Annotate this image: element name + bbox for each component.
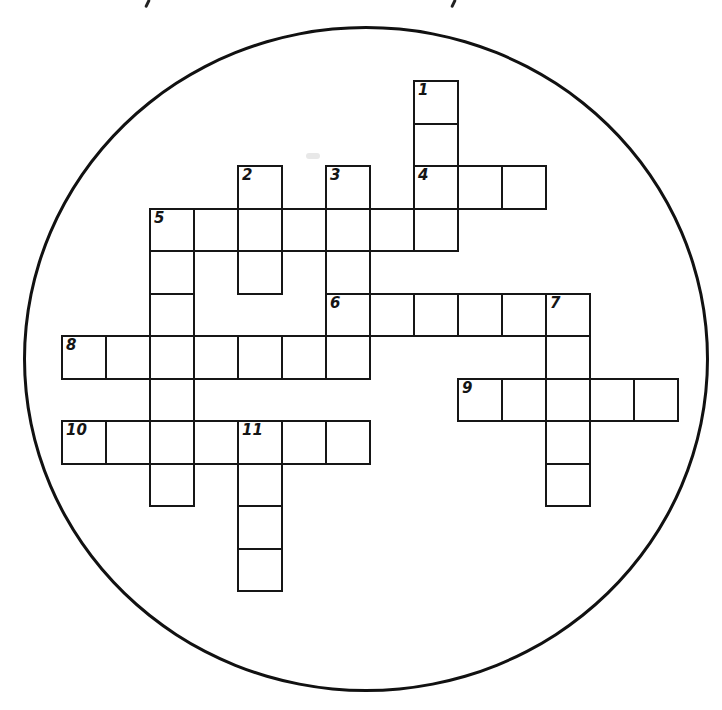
crossword-cell[interactable] (237, 335, 283, 380)
clue-number: 8 (66, 338, 76, 353)
crossword-cell[interactable] (413, 208, 459, 253)
crossword-cell[interactable] (457, 293, 503, 338)
clue-number: 9 (462, 381, 472, 396)
crossword-cell[interactable] (149, 378, 195, 423)
crossword-cell[interactable] (545, 378, 591, 423)
crossword-cell[interactable] (501, 165, 547, 210)
crossword-cell[interactable]: 3 (325, 165, 371, 210)
crossword-cell[interactable] (149, 335, 195, 380)
crossword-cell[interactable]: 9 (457, 378, 503, 423)
clue-number: 6 (330, 296, 340, 311)
crossword-cell[interactable] (589, 378, 635, 423)
crossword-cell[interactable] (237, 505, 283, 550)
cropped-text-fragment (450, 0, 457, 8)
crossword-cell[interactable] (237, 463, 283, 508)
crossword-cell[interactable] (545, 335, 591, 380)
crossword-cell[interactable] (149, 420, 195, 465)
crossword-cell[interactable] (325, 420, 371, 465)
clue-number: 7 (550, 296, 560, 311)
crossword-cell[interactable] (501, 293, 547, 338)
crossword-cell[interactable] (413, 293, 459, 338)
crossword-cell[interactable] (501, 378, 547, 423)
crossword-cell[interactable]: 11 (237, 420, 283, 465)
crossword-cell[interactable] (325, 335, 371, 380)
crossword-cell[interactable] (633, 378, 679, 423)
crossword-cell[interactable] (237, 208, 283, 253)
crossword-cell[interactable] (325, 250, 371, 295)
crossword-cell[interactable] (545, 463, 591, 508)
crossword-cell[interactable] (545, 420, 591, 465)
crossword-cell[interactable] (369, 293, 415, 338)
clue-number: 10 (66, 423, 87, 438)
crossword-cell[interactable] (149, 293, 195, 338)
crossword-cell[interactable] (237, 548, 283, 593)
crossword-cell[interactable] (193, 420, 239, 465)
crossword-cell[interactable] (237, 250, 283, 295)
crossword-cell[interactable]: 1 (413, 80, 459, 125)
crossword-cell[interactable] (325, 208, 371, 253)
crossword-cell[interactable]: 4 (413, 165, 459, 210)
crossword-cell[interactable] (413, 123, 459, 168)
crossword-cell[interactable] (281, 208, 327, 253)
crossword-cell[interactable] (457, 165, 503, 210)
crossword-page: 1423657891011 (0, 0, 722, 710)
crossword-cell[interactable] (105, 335, 151, 380)
crossword-cell[interactable] (193, 208, 239, 253)
crossword-cell[interactable] (149, 250, 195, 295)
crossword-cell[interactable]: 2 (237, 165, 283, 210)
crossword-cell[interactable]: 10 (61, 420, 107, 465)
crossword-cell[interactable]: 7 (545, 293, 591, 338)
clue-number: 4 (418, 168, 428, 183)
crossword-cell[interactable] (149, 463, 195, 508)
clue-number: 11 (242, 423, 263, 438)
cropped-text-fragment (144, 0, 151, 8)
crossword-cell[interactable]: 6 (325, 293, 371, 338)
crossword-cell[interactable] (105, 420, 151, 465)
crossword-cell[interactable] (281, 335, 327, 380)
clue-number: 1 (418, 83, 428, 98)
crossword-cell[interactable] (369, 208, 415, 253)
crossword-cell[interactable]: 8 (61, 335, 107, 380)
clue-number: 5 (154, 211, 164, 226)
crossword-cell[interactable] (281, 420, 327, 465)
clue-number: 2 (242, 168, 252, 183)
clue-number: 3 (330, 168, 340, 183)
crossword-cell[interactable] (193, 335, 239, 380)
crossword-cell[interactable]: 5 (149, 208, 195, 253)
